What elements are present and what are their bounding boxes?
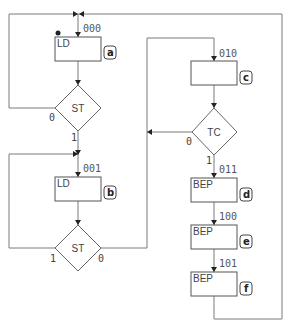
decision-tc[interactable]: TC 0 1	[186, 108, 237, 166]
state-c-box	[191, 61, 237, 85]
state-e-code: 100	[219, 211, 237, 222]
state-d-tag: d	[243, 189, 250, 200]
state-a-output: LD	[57, 38, 70, 49]
junction-arrow-right-icon	[79, 11, 84, 17]
decision-st1-condition: ST	[72, 103, 85, 114]
state-f-tag: f	[244, 283, 249, 294]
state-d[interactable]: BEP 011 d	[191, 164, 252, 202]
decision-st2-false-label: 0	[98, 253, 104, 264]
arrow-into-f-icon	[211, 267, 217, 272]
arrow-into-tc-icon	[211, 103, 217, 108]
decision-st1[interactable]: ST 0 1	[49, 85, 101, 143]
arrow-into-c-icon	[211, 56, 217, 61]
state-f[interactable]: BEP 101 f	[191, 258, 252, 296]
state-b-output: LD	[57, 178, 70, 189]
decision-st1-true-label: 1	[71, 132, 77, 143]
arrow-into-st2-icon	[75, 220, 81, 225]
decision-tc-condition: TC	[207, 127, 220, 138]
decision-st2-true-label: 1	[50, 253, 56, 264]
decision-st2[interactable]: ST 1 0	[50, 225, 104, 271]
state-a-tag: a	[107, 47, 114, 58]
state-d-output: BEP	[193, 179, 213, 190]
state-f-output: BEP	[193, 273, 213, 284]
arrow-into-d-icon	[211, 173, 217, 178]
state-a-code: 000	[83, 23, 101, 34]
decision-st1-false-label: 0	[49, 112, 55, 123]
state-e-output: BEP	[193, 226, 213, 237]
st1-false-loop-wire	[9, 14, 55, 108]
state-b-tag: b	[107, 187, 114, 198]
arrow-tc-junction-icon	[147, 129, 152, 135]
state-b[interactable]: LD 001 b	[55, 163, 116, 201]
state-d-code: 011	[219, 164, 237, 175]
decision-st2-condition: ST	[72, 243, 85, 254]
state-c-code: 010	[219, 48, 237, 59]
decision-tc-true-label: 1	[206, 155, 212, 166]
state-a[interactable]: LD 000 a	[55, 23, 116, 61]
arrow-into-st1-icon	[75, 80, 81, 85]
initial-state-dot-icon	[56, 31, 61, 36]
state-b-code: 001	[83, 163, 101, 174]
state-f-code: 101	[219, 258, 237, 269]
state-e[interactable]: BEP 100 e	[191, 211, 252, 249]
state-c[interactable]: 010 c	[191, 48, 252, 85]
junction-arrow-left-icon	[73, 11, 78, 17]
decision-tc-false-label: 0	[186, 136, 192, 147]
state-c-tag: c	[243, 72, 249, 83]
arrow-into-e-icon	[211, 220, 217, 225]
arrow-into-a-icon	[75, 32, 81, 37]
arrow-into-b-icon	[75, 172, 81, 177]
asm-chart: LD 000 a LD 001 b 010 c BEP 011 d BEP 10…	[0, 0, 288, 326]
state-e-tag: e	[243, 236, 250, 247]
